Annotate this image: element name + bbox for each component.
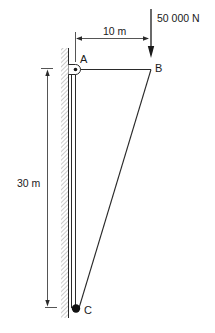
- dimension-vertical: 30 m: [17, 69, 57, 308]
- diagram-canvas: 10 m 50 000 N 30 m A B C: [0, 0, 215, 333]
- arrowhead-right-icon: [143, 36, 149, 40]
- arrowhead-down-icon: [45, 300, 49, 307]
- mast: [72, 66, 76, 308]
- down-arrow-icon: [148, 46, 154, 58]
- wall: [61, 48, 69, 318]
- load-label: 50 000 N: [157, 12, 200, 24]
- dim-label-30m: 30 m: [17, 177, 41, 189]
- arrowhead-left-icon: [76, 36, 82, 40]
- arrowhead-up-icon: [45, 70, 49, 77]
- pin-a-dot: [74, 68, 78, 72]
- label-b: B: [155, 62, 162, 74]
- pin-c: [72, 304, 80, 312]
- cable-bc: [79, 70, 151, 309]
- label-c: C: [84, 304, 92, 316]
- load-arrow: 50 000 N: [148, 9, 200, 58]
- label-a: A: [80, 53, 88, 65]
- pin-a: [69, 65, 81, 75]
- dim-label-10m: 10 m: [103, 25, 127, 37]
- wall-hatching: [61, 48, 68, 318]
